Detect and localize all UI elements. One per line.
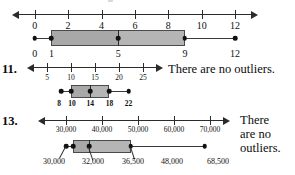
axis-tick-label: 40,000 — [92, 125, 113, 134]
datapoint-q3 — [183, 36, 188, 41]
axis-tick-label: 12 — [230, 20, 240, 31]
boxplot-label-q1: 32,000 — [82, 157, 104, 166]
note-problem-11: There are no outliers. — [168, 62, 275, 77]
boxplot-label-max: 12 — [230, 48, 240, 59]
scan-speck — [108, 0, 113, 2]
boxplot-label-median: 36,500 — [122, 157, 144, 166]
datapoint-max — [233, 36, 238, 41]
axis-arrow-left — [38, 117, 45, 125]
datapoint-min — [32, 36, 37, 41]
datapoint-q3 — [107, 89, 112, 94]
datapoint-median — [88, 89, 93, 94]
boxplot-label-min: 30,000 — [43, 157, 65, 166]
box-q1-median — [51, 30, 118, 46]
axis-tick-label: 50,000 — [128, 125, 149, 134]
problem-number-13: 13. — [2, 114, 18, 129]
boxplot-label-q1: 1 — [49, 48, 54, 59]
boxplot-label-median: 5 — [116, 48, 121, 59]
boxplot-label-q3: 18 — [106, 99, 114, 108]
boxplot-label-min: 0 — [32, 48, 37, 59]
axis-tick-label: 0 — [32, 20, 37, 31]
axis-tick-label: 10 — [197, 20, 207, 31]
note-line: There — [240, 113, 281, 127]
boxplot-label-q3: 48,000 — [161, 157, 183, 166]
boxplot-label-median: 14 — [86, 99, 94, 108]
axis-tick-label: 30,000 — [56, 125, 77, 134]
datapoint-q1 — [49, 36, 54, 41]
axis-tick — [210, 116, 211, 125]
axis-tick — [66, 116, 67, 125]
axis-tick — [68, 10, 69, 19]
axis-tick-label: 5 — [45, 73, 49, 82]
datapoint-max — [202, 144, 207, 149]
boxplot-label-max: 22 — [125, 99, 133, 108]
boxplot-label-min: 8 — [57, 99, 61, 108]
problem-number-11: 11. — [2, 62, 17, 77]
axis-tick-label: 15 — [91, 73, 99, 82]
datapoint-median — [116, 36, 121, 41]
boxplot-label-q1: 10 — [68, 99, 76, 108]
axis-arrow-right — [251, 11, 258, 19]
whisker-right — [185, 38, 235, 39]
whisker-right — [131, 146, 205, 147]
axis-tick — [102, 10, 103, 19]
axis-tick — [135, 10, 136, 19]
axis-line — [44, 120, 224, 121]
note-problem-13: There are no outliers. — [240, 113, 281, 155]
axis-tick — [47, 63, 48, 72]
datapoint-max — [126, 89, 131, 94]
axis-tick — [174, 116, 175, 125]
datapoint-q1 — [71, 144, 76, 149]
axis-tick — [143, 63, 144, 72]
note-line: outliers. — [240, 141, 281, 155]
axis-tick-label: 20 — [115, 73, 123, 82]
axis-tick — [168, 10, 169, 19]
axis-tick — [119, 63, 120, 72]
datapoint-q1 — [69, 89, 74, 94]
axis-arrow-right — [223, 117, 230, 125]
axis-tick — [95, 63, 96, 72]
axis-tick — [71, 63, 72, 72]
worksheet-page: { "page": { "background": "#ffffff", "in… — [0, 0, 295, 175]
boxplot-label-q3: 9 — [182, 48, 187, 59]
axis-tick — [202, 10, 203, 19]
axis-tick — [35, 10, 36, 19]
axis-arrow-left — [12, 11, 19, 19]
axis-tick — [235, 10, 236, 19]
axis-tick-label: 70,000 — [200, 125, 221, 134]
axis-tick-label: 60,000 — [164, 125, 185, 134]
note-line: are no — [240, 127, 281, 141]
axis-tick-label: 10 — [67, 73, 75, 82]
axis-arrow-right — [156, 64, 163, 72]
axis-tick — [102, 116, 103, 125]
axis-arrow-left — [27, 64, 34, 72]
boxplot-label-max: 68,500 — [207, 157, 229, 166]
axis-tick-label: 25 — [139, 73, 147, 82]
axis-tick — [138, 116, 139, 125]
datapoint-min — [59, 89, 64, 94]
